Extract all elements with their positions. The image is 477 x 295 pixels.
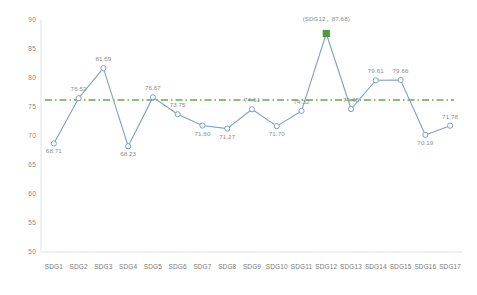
data-label-sdg9: 74.61 (244, 97, 260, 103)
y-tick-55: 55 (18, 220, 36, 227)
data-label-sdg13: 74.65 (343, 97, 359, 103)
x-tick-sdg12: SDG12 (315, 264, 337, 271)
x-tick-sdg8: SDG8 (218, 264, 236, 271)
y-tick-75: 75 (18, 104, 36, 111)
data-label-sdg8: 71.27 (219, 134, 235, 140)
x-tick-sdg13: SDG13 (340, 264, 362, 271)
data-label-sdg11: 74.32 (294, 99, 310, 105)
y-tick-60: 60 (18, 191, 36, 198)
annotation-marker (323, 30, 330, 37)
data-label-sdg6: 73.75 (170, 102, 186, 108)
data-label-sdg3: 81.69 (95, 56, 111, 62)
y-tick-70: 70 (18, 133, 36, 140)
y-tick-90: 90 (18, 17, 36, 24)
data-label-sdg14: 79.61 (368, 68, 384, 74)
x-tick-sdg5: SDG5 (144, 264, 162, 271)
y-tick-85: 85 (18, 46, 36, 53)
data-label-sdg16: 70.19 (417, 140, 433, 146)
x-tick-sdg9: SDG9 (243, 264, 261, 271)
x-tick-sdg2: SDG2 (70, 264, 88, 271)
x-tick-sdg10: SDG10 (266, 264, 288, 271)
chart-container: 908580757065605550 SDG1SDG2SDG3SDG4SDG5S… (0, 0, 477, 295)
x-tick-sdg6: SDG6 (169, 264, 187, 271)
y-tick-65: 65 (18, 162, 36, 169)
data-label-sdg10: 71.70 (269, 131, 285, 137)
x-tick-sdg17: SDG17 (439, 264, 461, 271)
x-tick-sdg16: SDG16 (414, 264, 436, 271)
y-tick-80: 80 (18, 75, 36, 82)
data-label-sdg5: 76.67 (145, 85, 161, 91)
x-tick-sdg14: SDG14 (365, 264, 387, 271)
chart-plot-area (0, 0, 477, 295)
data-label-sdg17: 71.78 (442, 114, 458, 120)
x-tick-sdg1: SDG1 (45, 264, 63, 271)
data-label-sdg4: 68.23 (120, 151, 136, 157)
data-label-sdg15: 79.66 (393, 68, 409, 74)
peak-callout-label: (SDG12，87.68) (303, 16, 350, 22)
x-tick-sdg4: SDG4 (119, 264, 137, 271)
data-label-sdg1: 68.71 (46, 148, 62, 154)
x-tick-sdg7: SDG7 (193, 264, 211, 271)
series-line (54, 33, 450, 146)
data-label-sdg7: 71.80 (194, 131, 210, 137)
x-tick-sdg3: SDG3 (94, 264, 112, 271)
x-tick-sdg15: SDG15 (390, 264, 412, 271)
data-label-sdg2: 76.52 (71, 86, 87, 92)
y-tick-50: 50 (18, 249, 36, 256)
x-tick-sdg11: SDG11 (291, 264, 312, 271)
series-markers (51, 31, 452, 149)
